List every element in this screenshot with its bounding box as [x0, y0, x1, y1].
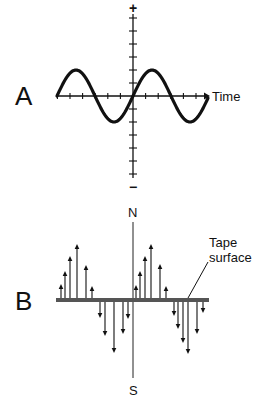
panel-a-label: A: [15, 81, 33, 111]
tape-callout-label-line1: Tape: [209, 235, 237, 250]
north-pole-label: N: [128, 205, 137, 220]
tape-surface: [56, 298, 209, 302]
magnetic-recording-figure: A + − Time B N S Tape surface: [0, 0, 267, 415]
y-axis-plus-label: +: [129, 0, 137, 16]
y-axis-minus-label: −: [129, 179, 137, 195]
tape-callout-label-line2: surface: [209, 250, 252, 265]
panel-b-label: B: [15, 286, 32, 316]
south-pole-label: S: [129, 383, 138, 398]
time-axis-label: Time: [212, 89, 240, 104]
